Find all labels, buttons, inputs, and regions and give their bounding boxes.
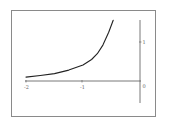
x-tick-label-neg1: -1 xyxy=(80,84,85,90)
x-tick-label-neg2: -2 xyxy=(24,84,29,90)
chart-plot: -2 -1 0 1 xyxy=(0,0,172,127)
data-curve xyxy=(26,20,113,77)
y-tick-label-one: 1 xyxy=(143,39,146,45)
x-tick-label-zero: 0 xyxy=(143,83,146,89)
